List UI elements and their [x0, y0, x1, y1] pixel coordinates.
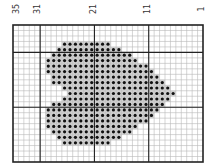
stitch-dot	[74, 75, 77, 78]
stitch-dot	[106, 48, 109, 51]
stitch-dot	[112, 108, 115, 111]
stitch-dot	[134, 125, 137, 128]
stitch-dot	[101, 125, 104, 128]
stitch-dot	[144, 65, 147, 68]
stitch-dot	[144, 119, 147, 122]
stitch-dot	[128, 97, 131, 100]
stitch-dot	[47, 114, 50, 117]
stitch-dot	[74, 59, 77, 62]
stitch-dot	[85, 59, 88, 62]
stitch-dot	[117, 75, 120, 78]
stitch-dot	[47, 70, 50, 73]
stitch-dot	[128, 114, 131, 117]
stitch-dot	[172, 92, 175, 95]
stitch-dot	[68, 125, 71, 128]
stitch-dot	[63, 114, 66, 117]
stitch-dot	[96, 81, 99, 84]
stitch-dot	[134, 86, 137, 89]
stitch-dot	[85, 48, 88, 51]
stitch-dot	[52, 70, 55, 73]
stitch-dot	[144, 108, 147, 111]
stitch-dot	[123, 103, 126, 106]
stitch-dot	[117, 103, 120, 106]
stitch-dot	[63, 108, 66, 111]
stitch-dot	[96, 75, 99, 78]
stitch-dot	[68, 130, 71, 133]
stitch-dot	[74, 114, 77, 117]
stitch-dot	[68, 86, 71, 89]
stitch-dot	[96, 130, 99, 133]
stitch-dot	[101, 59, 104, 62]
stitch-dot	[52, 125, 55, 128]
stitch-dot	[134, 119, 137, 122]
stitch-dot	[123, 97, 126, 100]
stitch-dot	[123, 125, 126, 128]
stitch-dot	[85, 103, 88, 106]
stitch-dot	[79, 141, 82, 144]
stitch-dot	[106, 75, 109, 78]
stitch-dot	[150, 70, 153, 73]
stitch-dot	[161, 81, 164, 84]
stitch-dot	[106, 97, 109, 100]
stitch-dot	[101, 130, 104, 133]
stitch-dot	[58, 114, 61, 117]
stitch-dot	[47, 59, 50, 62]
stitch-dot	[112, 65, 115, 68]
stitch-dot	[90, 141, 93, 144]
stitch-dot	[101, 75, 104, 78]
stitch-dot	[112, 92, 115, 95]
stitch-dot	[117, 108, 120, 111]
stitch-dot	[123, 119, 126, 122]
stitch-dot	[139, 114, 142, 117]
stitch-dot	[155, 75, 158, 78]
stitch-dot	[63, 130, 66, 133]
stitch-dot	[101, 114, 104, 117]
stitch-dot	[144, 97, 147, 100]
stitch-dot	[85, 70, 88, 73]
stitch-dot	[155, 81, 158, 84]
stitch-dot	[85, 43, 88, 46]
stitch-dot	[79, 130, 82, 133]
stitch-dot	[134, 114, 137, 117]
stitch-dot	[90, 136, 93, 139]
stitch-dot	[101, 97, 104, 100]
stitch-dot	[79, 103, 82, 106]
stitch-dot	[139, 81, 142, 84]
stitch-dot	[117, 59, 120, 62]
stitch-dot	[123, 86, 126, 89]
stitch-dot	[150, 108, 153, 111]
stitch-dot	[68, 103, 71, 106]
stitch-dot	[128, 103, 131, 106]
stitch-dot	[52, 119, 55, 122]
stitch-dot	[134, 75, 137, 78]
stitch-dot	[101, 81, 104, 84]
stitch-dot	[63, 103, 66, 106]
stitch-dot	[139, 108, 142, 111]
stitch-dot	[47, 125, 50, 128]
stitch-dot	[90, 103, 93, 106]
stitch-dot	[79, 54, 82, 57]
stitch-dot	[79, 48, 82, 51]
stitch-dot	[101, 65, 104, 68]
stitch-dot	[139, 92, 142, 95]
stitch-dot	[139, 75, 142, 78]
stitch-dot	[74, 65, 77, 68]
stitch-dot	[63, 43, 66, 46]
stitch-dot	[150, 75, 153, 78]
stitch-dot	[74, 119, 77, 122]
stitch-dot	[112, 75, 115, 78]
stitch-dot	[47, 65, 50, 68]
stitch-dot	[128, 130, 131, 133]
stitch-dot	[101, 108, 104, 111]
stitch-dot	[117, 97, 120, 100]
stitch-dot	[79, 125, 82, 128]
stitch-dot	[68, 54, 71, 57]
stitch-dot	[117, 119, 120, 122]
stitch-dot	[68, 119, 71, 122]
stitch-dot	[106, 119, 109, 122]
stitch-dot	[144, 81, 147, 84]
stitch-dot	[85, 54, 88, 57]
stitch-dot	[52, 59, 55, 62]
stitch-dot	[85, 125, 88, 128]
stitch-dot	[74, 43, 77, 46]
